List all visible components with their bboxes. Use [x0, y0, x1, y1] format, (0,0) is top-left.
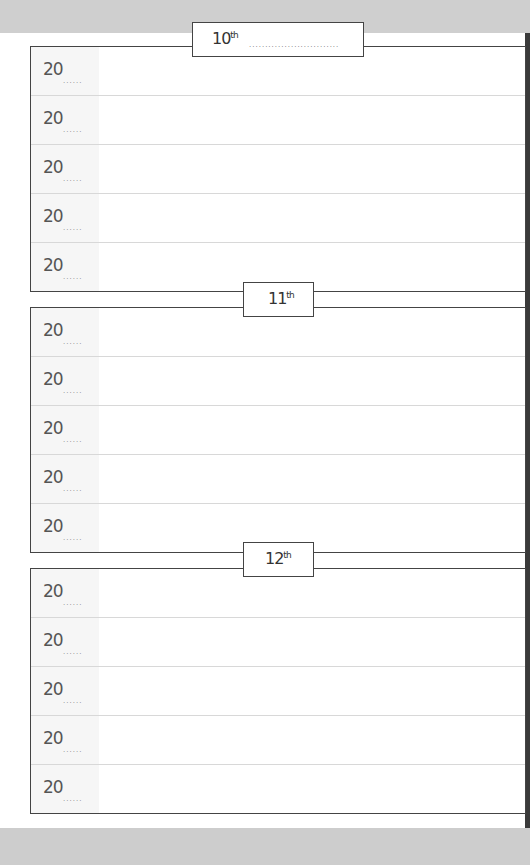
year-prefix: 20	[43, 157, 63, 177]
day-panel-12: 20...... 20...... 20...... 20...... 20..…	[30, 568, 526, 814]
year-blank: ......	[63, 795, 82, 803]
year-blank: ......	[63, 485, 82, 493]
year-prefix: 20	[43, 728, 63, 748]
day-suffix: th	[286, 290, 293, 300]
year-blank: ......	[63, 126, 82, 134]
day-number: 12	[265, 549, 283, 568]
year-prefix: 20	[43, 581, 63, 601]
year-blank: ......	[63, 338, 82, 346]
year-row[interactable]: 20......	[31, 618, 525, 667]
year-prefix: 20	[43, 630, 63, 650]
year-row[interactable]: 20......	[31, 145, 525, 194]
year-row[interactable]: 20......	[31, 96, 525, 145]
year-prefix: 20	[43, 320, 63, 340]
day-label-10: 10th ............................	[192, 22, 364, 57]
month-blank[interactable]: ............................	[249, 41, 339, 49]
year-blank: ......	[63, 697, 82, 705]
year-prefix: 20	[43, 255, 63, 275]
year-row[interactable]: 20......	[31, 194, 525, 243]
year-prefix: 20	[43, 206, 63, 226]
year-blank: ......	[63, 175, 82, 183]
year-row[interactable]: 20......	[31, 406, 525, 455]
year-row[interactable]: 20......	[31, 765, 525, 814]
day-panel-11: 20...... 20...... 20...... 20...... 20..…	[30, 307, 526, 553]
year-blank: ......	[63, 224, 82, 232]
bottom-background-band	[0, 828, 530, 865]
year-prefix: 20	[43, 516, 63, 536]
year-prefix: 20	[43, 369, 63, 389]
year-prefix: 20	[43, 418, 63, 438]
day-label-12: 12th	[243, 542, 314, 577]
day-panel-10: 20...... 20...... 20...... 20...... 20..…	[30, 46, 526, 292]
year-row[interactable]: 20......	[31, 667, 525, 716]
year-blank: ......	[63, 273, 82, 281]
year-prefix: 20	[43, 467, 63, 487]
day-number: 10	[212, 29, 230, 48]
year-prefix: 20	[43, 59, 63, 79]
year-prefix: 20	[43, 679, 63, 699]
year-row[interactable]: 20......	[31, 357, 525, 406]
year-prefix: 20	[43, 108, 63, 128]
day-suffix: th	[283, 550, 290, 560]
year-blank: ......	[63, 746, 82, 754]
day-label-11: 11th	[243, 282, 314, 317]
year-blank: ......	[63, 534, 82, 542]
year-blank: ......	[63, 77, 82, 85]
year-blank: ......	[63, 436, 82, 444]
year-row[interactable]: 20......	[31, 716, 525, 765]
year-blank: ......	[63, 648, 82, 656]
day-suffix: th	[230, 30, 237, 40]
year-row[interactable]: 20......	[31, 455, 525, 504]
day-number: 11	[268, 289, 286, 308]
year-blank: ......	[63, 599, 82, 607]
year-prefix: 20	[43, 777, 63, 797]
year-blank: ......	[63, 387, 82, 395]
